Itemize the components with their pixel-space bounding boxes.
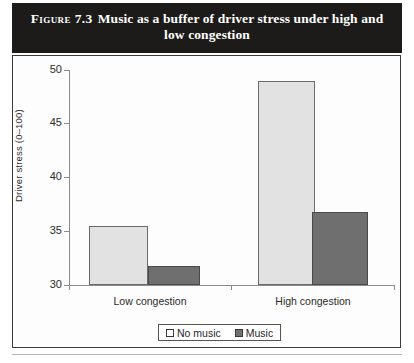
y-tick-mark-40 — [64, 177, 70, 178]
x-tick-mark-end — [394, 285, 395, 290]
figure-title-text: Figure 7.3Music as a buffer of driver st… — [26, 11, 388, 43]
legend-swatch-no-music-icon — [166, 329, 174, 337]
y-tick-label-30-wrap: 30 — [30, 279, 62, 290]
y-tick-label-50-wrap: 50 — [30, 64, 62, 75]
y-tick-label-45: 45 — [34, 117, 62, 128]
figure-caption: Music as a buffer of driver stress under… — [98, 11, 384, 42]
bar-high-congestion-music — [312, 212, 368, 285]
y-tick-mark-50 — [64, 70, 70, 71]
y-tick-label-35-wrap: 35 — [30, 225, 62, 236]
x-tick-mark-middle — [231, 285, 232, 290]
y-tick-label-35: 35 — [34, 225, 62, 236]
figure-title-bar: Figure 7.3Music as a buffer of driver st… — [12, 3, 402, 53]
legend-entry-music: Music — [235, 327, 273, 339]
y-tick-mark-45 — [64, 123, 70, 124]
bar-low-congestion-music — [148, 266, 200, 285]
y-tick-label-40-wrap: 40 — [30, 171, 62, 182]
figure-number-label: Figure 7.3 — [31, 11, 98, 26]
y-tick-mark-35 — [64, 231, 70, 232]
figure-container: Figure 7.3Music as a buffer of driver st… — [0, 0, 414, 363]
legend-swatch-music-icon — [235, 329, 243, 337]
x-tick-mark-start — [69, 285, 70, 290]
y-tick-label-50: 50 — [34, 64, 62, 75]
legend-label-music: Music — [246, 327, 273, 339]
y-axis-line — [69, 70, 70, 286]
legend-entry-no-music: No music — [166, 327, 221, 339]
bar-high-congestion-no-music — [258, 81, 315, 285]
chart-legend: No music Music — [158, 324, 281, 341]
y-tick-label-45-wrap: 45 — [30, 117, 62, 128]
y-axis-title: Driver stress (0–100) — [13, 81, 24, 231]
bottom-divider — [12, 354, 402, 355]
x-category-label-high-congestion: High congestion — [258, 295, 368, 307]
y-tick-label-30: 30 — [34, 279, 62, 290]
legend-label-no-music: No music — [177, 327, 221, 339]
x-category-label-low-congestion: Low congestion — [95, 295, 205, 307]
y-tick-label-40: 40 — [34, 171, 62, 182]
bar-low-congestion-no-music — [89, 226, 148, 285]
